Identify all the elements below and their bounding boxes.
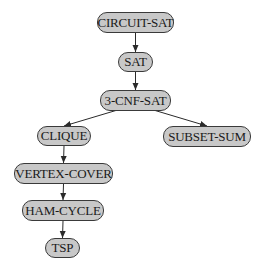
edge-vertex_cover-to-ham_cycle: [63, 184, 64, 200]
edge-cnf3_sat-to-subset_sum: [154, 110, 208, 126]
node-3-cnf-sat: 3-CNF-SAT: [100, 90, 171, 111]
node-circuit-sat: CIRCUIT-SAT: [97, 12, 174, 33]
node-clique: CLIQUE: [37, 126, 91, 146]
node-ham-cycle: HAM-CYCLE: [22, 200, 104, 221]
node-subset-sum: SUBSET-SUM: [163, 126, 251, 147]
node-sat: SAT: [118, 52, 153, 72]
edge-cnf3_sat-to-clique: [64, 110, 118, 126]
edge-clique-to-vertex_cover: [64, 146, 65, 163]
reduction-diagram: CIRCUIT-SAT SAT 3-CNF-SAT CLIQUE SUBSET-…: [0, 0, 265, 264]
edge-ham_cycle-to-tsp: [63, 221, 64, 238]
node-tsp: TSP: [45, 238, 80, 258]
node-vertex-cover: VERTEX-COVER: [14, 163, 113, 184]
